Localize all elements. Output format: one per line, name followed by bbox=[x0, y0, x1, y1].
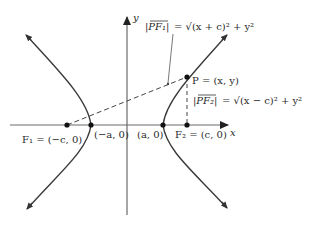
hyperbola-left-branch bbox=[27, 36, 91, 208]
focus-F1-point bbox=[64, 122, 69, 127]
arrow-icon bbox=[222, 35, 227, 40]
PF1-rhs: = √(x + c)² + y² bbox=[174, 21, 254, 32]
arrow-icon bbox=[222, 202, 227, 208]
focus-F2-point bbox=[184, 122, 189, 127]
pos-vertex-label: (a, 0) bbox=[137, 129, 164, 140]
arrow-icon bbox=[27, 203, 32, 209]
x-axis-label: x bbox=[230, 127, 236, 138]
PF2-rhs: = √(x − c)² + y² bbox=[222, 95, 302, 106]
leader-line bbox=[168, 34, 173, 83]
PF2-lhs: |PF₂| bbox=[193, 95, 217, 107]
hyperbola-diagram: y x F₁ = (−c, 0) (−a, 0) (a, 0) F₂ = (c,… bbox=[0, 0, 313, 227]
point-P bbox=[184, 74, 189, 79]
PF1-lhs: |PF₁| bbox=[145, 21, 169, 33]
vertex-neg-a-point bbox=[88, 122, 93, 127]
y-axis-label: y bbox=[132, 12, 139, 23]
F1-label: F₁ = (−c, 0) bbox=[22, 134, 82, 145]
F2-label: F₂ = (c, 0) bbox=[175, 129, 227, 140]
hyperbola-right-branch bbox=[163, 36, 226, 207]
neg-vertex-label: (−a, 0) bbox=[94, 129, 129, 140]
P-label: P = (x, y) bbox=[192, 75, 239, 86]
vertex-a-point bbox=[160, 122, 165, 127]
arrow-icon bbox=[26, 35, 31, 40]
